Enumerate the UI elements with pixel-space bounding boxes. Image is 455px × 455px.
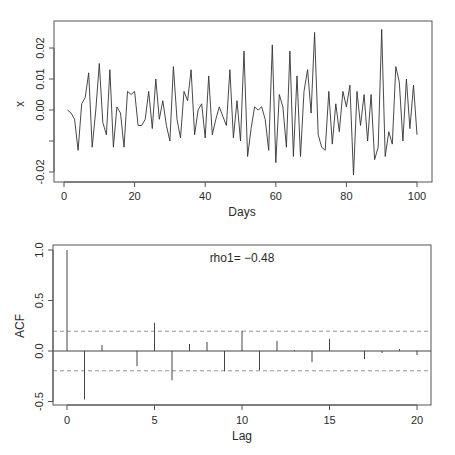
y-tick-label: 0.01 xyxy=(34,68,46,89)
acf-bars xyxy=(67,250,417,399)
x-tick-label: 0 xyxy=(61,190,67,202)
acf-frame xyxy=(53,245,431,405)
acf-y-axis: -0.50.00.51.0 xyxy=(33,242,53,411)
x-tick-label: 15 xyxy=(323,414,335,426)
acf-x-label: Lag xyxy=(232,429,252,443)
y-tick-label: -0.02 xyxy=(34,159,46,184)
time-series-plot: 020406080100 -0.020.000.010.02 Days x xyxy=(13,21,432,219)
acf-plot: 05101520 -0.50.00.51.0 rho1= −0.48 Lag A… xyxy=(13,242,431,443)
time-series-y-axis: -0.020.000.010.02 xyxy=(34,37,54,184)
y-tick-label: 0.5 xyxy=(33,293,45,308)
x-tick-label: 60 xyxy=(270,190,282,202)
y-tick-label: 0.02 xyxy=(34,37,46,58)
x-tick-label: 100 xyxy=(408,190,426,202)
time-series-x-label: Days xyxy=(228,205,255,219)
y-tick-label: 0.0 xyxy=(33,343,45,358)
y-tick-label: 1.0 xyxy=(33,242,45,257)
x-tick-label: 0 xyxy=(64,414,70,426)
x-tick-label: 80 xyxy=(340,190,352,202)
acf-x-axis: 05101520 xyxy=(64,405,423,426)
x-tick-label: 5 xyxy=(151,414,157,426)
y-tick-label: 0.00 xyxy=(34,99,46,120)
acf-annotation-rho1: rho1= −0.48 xyxy=(210,251,275,265)
x-tick-label: 40 xyxy=(199,190,211,202)
x-tick-label: 20 xyxy=(411,414,423,426)
time-series-x-axis: 020406080100 xyxy=(61,182,426,202)
x-tick-label: 10 xyxy=(236,414,248,426)
acf-y-label: ACF xyxy=(13,314,27,338)
y-tick-label: -0.5 xyxy=(33,392,45,411)
x-tick-label: 20 xyxy=(128,190,140,202)
time-series-line xyxy=(68,29,418,175)
figure: 020406080100 -0.020.000.010.02 Days x 05… xyxy=(0,0,455,455)
time-series-y-label: x xyxy=(13,101,27,107)
